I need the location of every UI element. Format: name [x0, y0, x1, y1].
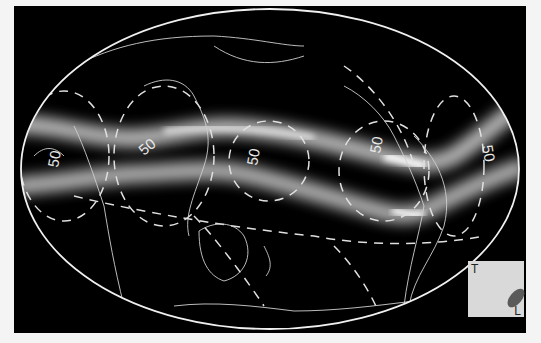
contour-label: 50 [44, 149, 64, 168]
legend-box: T L [468, 261, 524, 317]
contour-label: 50 [479, 144, 499, 163]
map-canvas: 50 50 50 50 50 [14, 6, 526, 333]
legend-top-label: T [471, 262, 478, 276]
legend-bottom-label: L [514, 304, 521, 318]
contour-label: 50 [243, 147, 263, 166]
map-frame: 50 50 50 50 50 T L [14, 6, 526, 333]
contour-label: 50 [366, 135, 386, 154]
